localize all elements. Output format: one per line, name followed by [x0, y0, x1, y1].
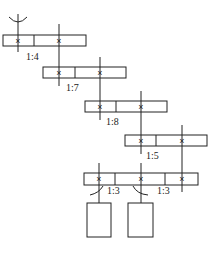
ratio-label-stage-2: 1:7: [66, 82, 79, 93]
mark-icon: ×: [97, 68, 102, 78]
ratio-label-stage-5-left: 1:3: [107, 185, 120, 196]
stage-4-box: [125, 135, 207, 146]
gear-train-diagram: × × × × × × × × × × × 1:4 1:7 1:8 1:5 1:…: [0, 0, 222, 253]
mark-icon: ×: [15, 36, 20, 46]
mark-icon: ×: [56, 68, 61, 78]
output-left-box: [87, 203, 111, 237]
ratio-label-stage-1: 1:4: [26, 51, 39, 62]
mark-icon: ×: [56, 36, 61, 46]
mark-icon: ×: [179, 174, 184, 184]
mark-icon: ×: [138, 102, 143, 112]
mark-icon: ×: [96, 174, 101, 184]
output-left-arc-icon: [90, 186, 103, 195]
ratio-label-stage-4: 1:5: [146, 150, 159, 161]
mark-icon: ×: [97, 102, 102, 112]
mark-icon: ×: [138, 136, 143, 146]
ratio-label-stage-5-right: 1:3: [157, 185, 170, 196]
mark-icon: ×: [138, 174, 143, 184]
mark-icon: ×: [179, 136, 184, 146]
output-right-box: [128, 203, 153, 237]
ratio-label-stage-3: 1:8: [106, 116, 119, 127]
